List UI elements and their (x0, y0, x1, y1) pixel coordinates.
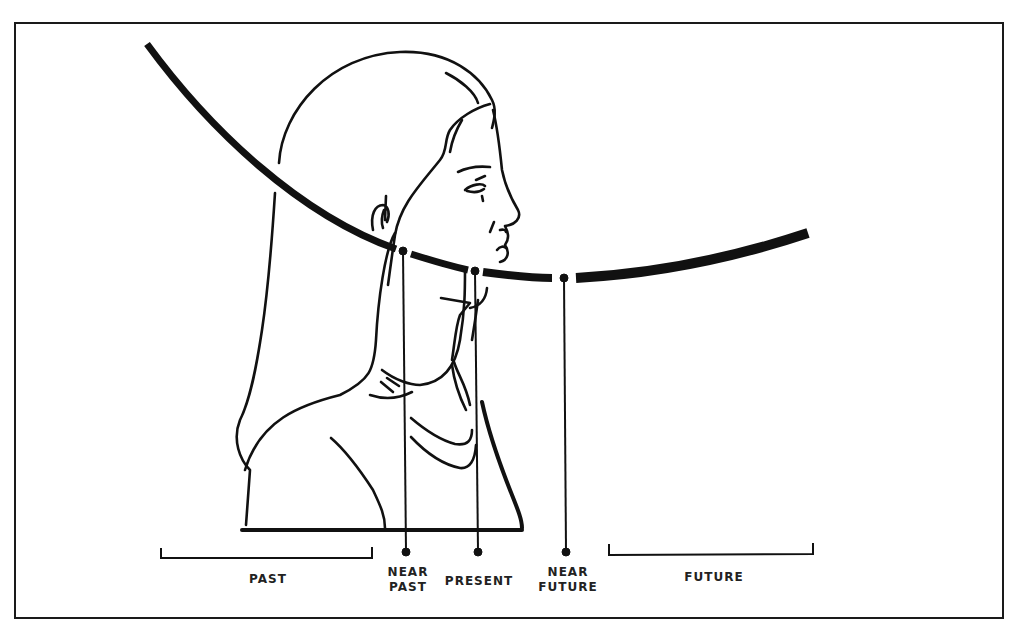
present-curve-dot (471, 267, 479, 275)
present-label: PRESENT (445, 574, 513, 589)
near-past-end-dot (402, 548, 410, 556)
near-future-end-dot (562, 548, 570, 556)
near-future-curve-dot (560, 274, 568, 282)
range-brackets (161, 543, 813, 558)
time-markers (399, 247, 570, 556)
near-past-marker-line (403, 251, 406, 551)
past-label: PAST (249, 572, 287, 587)
present-end-dot (474, 548, 482, 556)
near-past-curve-dot (399, 247, 407, 255)
near-future-marker-line (564, 278, 566, 551)
woman-profile-illustration (237, 52, 522, 530)
time-diagram (0, 0, 1018, 637)
near-past-label: NEAR PAST (388, 565, 429, 595)
future-label: FUTURE (684, 570, 743, 585)
future-bracket (609, 543, 813, 555)
near-future-label: NEAR FUTURE (538, 565, 597, 595)
past-bracket (161, 547, 372, 558)
